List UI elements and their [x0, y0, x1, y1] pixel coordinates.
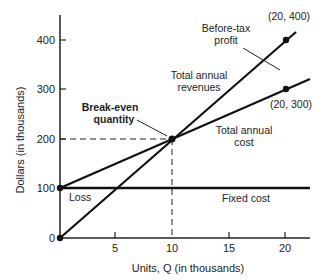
svg-text:Total annual: Total annual	[216, 124, 273, 136]
x-tick-20: 20	[279, 242, 291, 254]
svg-text:profit: profit	[214, 34, 237, 46]
x-axis-label: Units, Q (in thousands)	[132, 262, 245, 274]
x-tick-15: 15	[223, 242, 235, 254]
point-20-400	[283, 37, 289, 43]
x-ticks	[115, 232, 285, 238]
point-label-20-300: (20, 300)	[270, 98, 312, 110]
svg-text:cost: cost	[234, 136, 253, 148]
breakeven-leader-line	[137, 120, 167, 136]
origin-point	[57, 235, 63, 241]
y-tick-200: 200	[37, 133, 55, 145]
total-cost-label: Total annual cost	[216, 124, 273, 148]
y-tick-300: 300	[37, 83, 55, 95]
x-tick-labels: 5 10 15 20	[112, 242, 291, 254]
svg-text:Total annual: Total annual	[171, 69, 228, 81]
x-tick-5: 5	[112, 242, 118, 254]
total-cost-line	[60, 79, 310, 188]
y-tick-100: 100	[37, 182, 55, 194]
loss-label: Loss	[69, 191, 91, 203]
breakeven-quantity-label: Break-even quantity	[82, 101, 139, 125]
fixed-cost-label: Fixed cost	[222, 192, 270, 204]
y-ticks	[60, 40, 66, 139]
svg-text:revenues: revenues	[177, 81, 220, 93]
y-axis-label: Dollars (in thousands)	[14, 87, 26, 194]
breakeven-point	[169, 136, 176, 143]
fixed-cost-start-point	[57, 185, 63, 191]
y-tick-0: 0	[49, 232, 55, 244]
y-tick-labels: 0 100 200 300 400	[37, 34, 55, 244]
svg-text:Before-tax: Before-tax	[202, 22, 251, 34]
x-tick-10: 10	[166, 242, 178, 254]
y-tick-400: 400	[37, 34, 55, 46]
point-20-300	[283, 86, 289, 92]
before-tax-profit-label: Before-tax profit	[202, 22, 251, 46]
svg-text:Break-even: Break-even	[82, 101, 139, 113]
point-label-20-400: (20, 400)	[268, 10, 310, 22]
svg-text:quantity: quantity	[94, 113, 135, 125]
total-revenues-label: Total annual revenues	[171, 69, 228, 93]
break-even-chart: 0 100 200 300 400 5 10 15 20 Units, Q (i…	[0, 0, 325, 280]
